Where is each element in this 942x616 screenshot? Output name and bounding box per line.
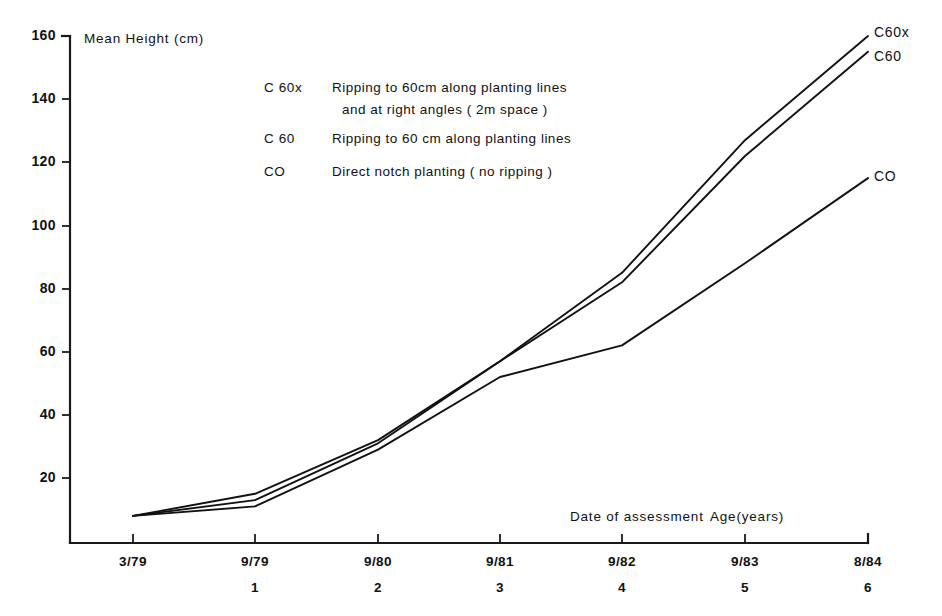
- xage-label-6: 6: [833, 580, 903, 595]
- line-chart: 160 140 120 100 80 60 40 20 Mean Height …: [0, 0, 942, 616]
- series-end-label-co: CO: [874, 168, 896, 184]
- legend-key-c60: C 60: [264, 131, 295, 146]
- legend-key-c60x: C 60x: [264, 80, 302, 95]
- xage-label-2: 2: [343, 580, 413, 595]
- series-end-label-c60x: C60x: [874, 24, 909, 40]
- x-axis-title-date: Date of assessment: [570, 509, 704, 524]
- xtick-label-3: 9/81: [465, 554, 535, 569]
- legend-desc-c60x-line2: and at right angles ( 2m space ): [342, 102, 548, 117]
- series-end-label-c60: C60: [874, 48, 902, 64]
- xage-label-1: 1: [220, 580, 290, 595]
- ytick-label-60: 60: [14, 343, 56, 359]
- y-axis-title: Mean Height (cm): [84, 31, 204, 46]
- xage-label-3: 3: [465, 580, 535, 595]
- ytick-label-120: 120: [14, 153, 56, 169]
- xtick-label-5: 9/83: [710, 554, 780, 569]
- ytick-label-20: 20: [14, 469, 56, 485]
- series-line-co: [133, 178, 868, 516]
- ytick-label-160: 160: [14, 27, 56, 43]
- legend-desc-co-line1: Direct notch planting ( no ripping ): [332, 164, 553, 179]
- xtick-label-2: 9/80: [343, 554, 413, 569]
- x-axis-title-age: Age(years): [710, 509, 784, 524]
- legend-desc-c60-line1: Ripping to 60 cm along planting lines: [332, 131, 571, 146]
- xage-label-5: 5: [710, 580, 780, 595]
- ytick-label-80: 80: [14, 280, 56, 296]
- legend-key-co: CO: [264, 164, 285, 179]
- x-axis-ticks: [133, 534, 868, 543]
- ytick-label-40: 40: [14, 406, 56, 422]
- xage-label-4: 4: [587, 580, 657, 595]
- xtick-label-4: 9/82: [587, 554, 657, 569]
- series-line-c60: [133, 52, 868, 516]
- xtick-label-6: 8/84: [833, 554, 903, 569]
- y-axis-ticks: [62, 36, 70, 478]
- ytick-label-140: 140: [14, 90, 56, 106]
- ytick-label-100: 100: [14, 217, 56, 233]
- legend-desc-c60x-line1: Ripping to 60cm along planting lines: [332, 80, 567, 95]
- xtick-label-0: 3/79: [98, 554, 168, 569]
- xtick-label-1: 9/79: [220, 554, 290, 569]
